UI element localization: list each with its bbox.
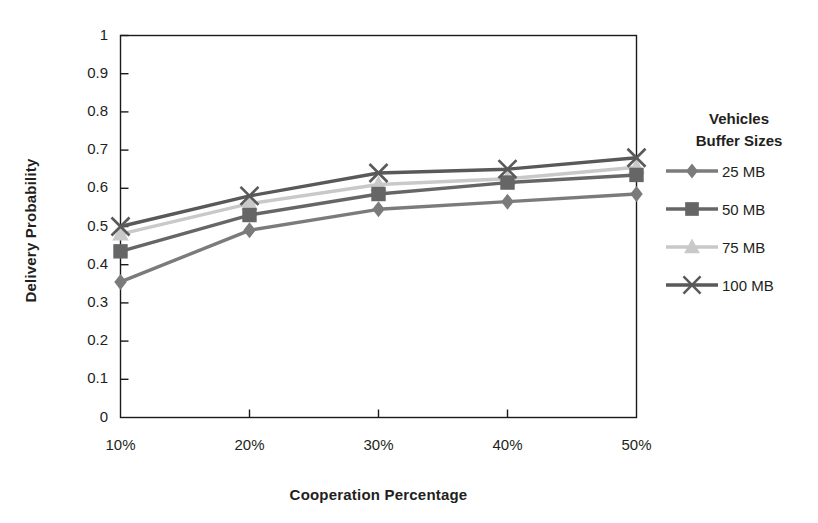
legend: Vehicles Buffer Sizes 25 MB50 MB75 MB100… bbox=[660, 108, 818, 304]
marker-diamond bbox=[686, 163, 698, 178]
y-tick-label: 0.2 bbox=[48, 331, 108, 348]
x-tick-label: 50% bbox=[597, 436, 677, 453]
y-tick-label: 0.8 bbox=[48, 102, 108, 119]
legend-title: Vehicles Buffer Sizes bbox=[660, 108, 818, 152]
x-tick-label: 40% bbox=[468, 436, 548, 453]
y-tick-label: 0.5 bbox=[48, 217, 108, 234]
legend-title-line-2: Buffer Sizes bbox=[660, 130, 818, 152]
y-tick-label: 0.4 bbox=[48, 255, 108, 272]
chart-container: 00.10.20.30.40.50.60.70.80.91 10%20%30%4… bbox=[0, 0, 818, 523]
legend-item[interactable]: 75 MB bbox=[664, 228, 818, 266]
x-axis-title: Cooperation Percentage bbox=[120, 486, 637, 503]
marker-square bbox=[685, 202, 699, 216]
legend-title-line-1: Vehicles bbox=[660, 108, 818, 130]
x-tick-label: 30% bbox=[339, 436, 419, 453]
legend-items: 25 MB50 MB75 MB100 MB bbox=[660, 152, 818, 304]
legend-item-label: 25 MB bbox=[720, 163, 765, 180]
legend-swatch-cross-icon bbox=[664, 274, 720, 296]
marker-square bbox=[500, 175, 514, 189]
y-tick-label: 0.1 bbox=[48, 369, 108, 386]
legend-swatch-square-icon bbox=[664, 198, 720, 220]
y-tick-label: 0.7 bbox=[48, 140, 108, 157]
plot-frame bbox=[121, 36, 637, 418]
legend-swatch-triangle-icon bbox=[664, 236, 720, 258]
marker-square bbox=[629, 168, 643, 182]
legend-item-label: 75 MB bbox=[720, 239, 765, 256]
legend-swatch-diamond-icon bbox=[664, 160, 720, 182]
y-tick-label: 0.9 bbox=[48, 64, 108, 81]
legend-item-label: 50 MB bbox=[720, 201, 765, 218]
y-tick-label: 0.6 bbox=[48, 178, 108, 195]
legend-item[interactable]: 50 MB bbox=[664, 190, 818, 228]
legend-item[interactable]: 25 MB bbox=[664, 152, 818, 190]
x-tick-label: 10% bbox=[81, 436, 161, 453]
y-tick-label: 1 bbox=[48, 26, 108, 43]
marker-square bbox=[242, 208, 256, 222]
y-axis-title: Delivery Probability bbox=[22, 131, 39, 331]
legend-item[interactable]: 100 MB bbox=[664, 266, 818, 304]
x-tick-label: 20% bbox=[210, 436, 290, 453]
marker-square bbox=[113, 244, 127, 258]
legend-item-label: 100 MB bbox=[720, 277, 774, 294]
y-tick-label: 0 bbox=[48, 408, 108, 425]
y-tick-label: 0.3 bbox=[48, 293, 108, 310]
marker-square bbox=[371, 187, 385, 201]
